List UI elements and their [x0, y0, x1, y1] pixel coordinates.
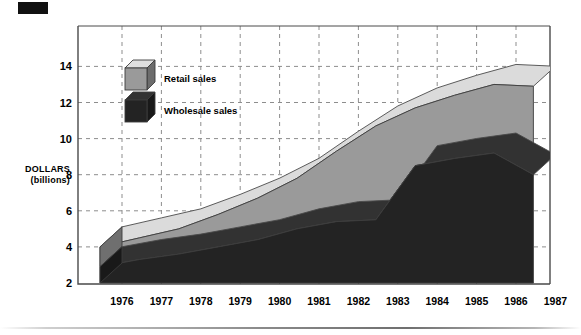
x-tick-label: 1983	[386, 295, 410, 307]
y-tick-label: 12	[60, 97, 72, 109]
x-tick-label: 1980	[268, 295, 292, 307]
x-tick-label: 1981	[307, 295, 331, 307]
x-tick-label: 1979	[229, 295, 253, 307]
chart-svg: 2468101214 19761977197819791980198119821…	[0, 0, 581, 335]
y-axis-label-line2: (billions)	[31, 175, 71, 185]
x-tick-label: 1978	[189, 295, 213, 307]
x-tick-label: 1984	[426, 295, 450, 307]
bottom-divider-rule	[0, 327, 581, 329]
y-tick-label: 4	[66, 241, 73, 253]
x-tick-label: 1977	[150, 295, 174, 307]
y-axis-label-line1: DOLLARS	[25, 164, 70, 174]
legend-item: Retail sales	[125, 60, 216, 90]
y-tick-label: 6	[66, 205, 72, 217]
x-tick-label: 1987	[544, 295, 568, 307]
x-tick-label: 1982	[347, 295, 371, 307]
x-tick-label: 1976	[110, 295, 134, 307]
legend-item: Wholesale sales	[125, 92, 237, 122]
y-tick-label: 14	[60, 60, 73, 72]
x-tick-labels: 1976197719781979198019811982198319841985…	[110, 295, 567, 307]
x-tick-label: 1985	[465, 295, 489, 307]
y-tick-label: 10	[60, 133, 72, 145]
legend-label: Wholesale sales	[164, 105, 237, 116]
legend-label: Retail sales	[164, 73, 216, 84]
cube-icon-front-face	[125, 100, 147, 122]
x-tick-label: 1986	[504, 295, 528, 307]
legend: Retail salesWholesale sales	[125, 60, 237, 122]
cube-icon-front-face	[125, 68, 147, 90]
y-tick-label: 2	[66, 277, 72, 289]
area-chart-figure: 2468101214 19761977197819791980198119821…	[0, 0, 581, 335]
